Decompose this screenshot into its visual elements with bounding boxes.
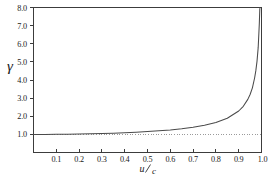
lorentz-factor-chart: 8.0 7.0 6.0 5.0 4.0 3.0 2.0 1.0 0.1 0.2 …	[0, 0, 273, 174]
y-tick-label: 1.0	[17, 130, 27, 139]
x-tick-label: 0.7	[188, 155, 198, 164]
y-tick-label: 7.0	[17, 22, 27, 31]
x-tick-label: 1.0	[258, 155, 268, 164]
x-tick-label: 0.3	[97, 155, 107, 164]
y-tick-label: 8.0	[17, 4, 27, 13]
x-tick-label: 0.6	[165, 155, 175, 164]
x-axis-title-denominator: c	[152, 166, 156, 175]
y-tick-label: 6.0	[17, 40, 27, 49]
x-axis-title-numerator: u	[140, 163, 145, 174]
y-tick-label: 4.0	[17, 76, 27, 85]
x-tick-label: 0.4	[120, 155, 130, 164]
chart-canvas: 8.0 7.0 6.0 5.0 4.0 3.0 2.0 1.0 0.1 0.2 …	[0, 0, 273, 174]
y-tick-label: 3.0	[17, 94, 27, 103]
y-tick-label: 5.0	[17, 58, 27, 67]
x-tick-label: 0.2	[74, 155, 84, 164]
chart-background	[0, 0, 273, 174]
x-tick-label: 0.8	[211, 155, 221, 164]
y-tick-label: 2.0	[17, 112, 27, 121]
x-tick-label: 0.1	[51, 155, 61, 164]
x-tick-label: 0.9	[234, 155, 244, 164]
